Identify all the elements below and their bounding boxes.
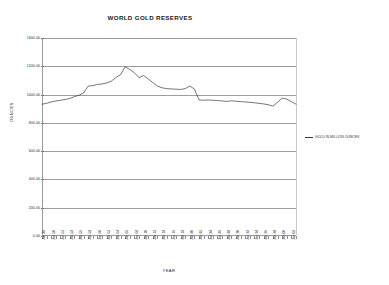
x-axis-tick [56,236,57,239]
y-axis-label: 1000.00 [27,93,40,97]
y-axis-label: 600.00 [29,149,40,153]
x-axis-tick [84,236,85,239]
x-axis-tick [278,236,279,239]
y-axis-label: 800.00 [29,121,40,125]
x-axis-tick [139,236,140,239]
x-axis-tick [111,236,112,239]
x-axis-tick [194,236,195,239]
x-axis-tick [241,236,242,239]
chart-legend: GOLD IN MILLION OUNCES [305,135,359,139]
legend-label-gold-in-million-ounces: GOLD IN MILLION OUNCES [315,135,359,139]
x-axis-tick [287,236,288,239]
y-axis-label: 1200.00 [27,64,40,68]
chart-container: WORLD GOLD RESERVES OUNCES 0.00200.00400… [0,0,389,285]
x-axis-title: YEAR [42,268,296,273]
x-axis-ticks-group: Jan-48Jan-50Jan-52Jan-54Jan-56Jan-58Jan-… [42,236,296,266]
x-axis-tick [176,236,177,239]
x-axis-tick [148,236,149,239]
x-axis-tick [204,236,205,239]
y-axis-title: OUNCES [9,102,14,122]
x-axis-tick [65,236,66,239]
x-axis-tick [231,236,232,239]
y-axis-label: 1400.00 [27,36,40,40]
x-axis-tick [121,236,122,239]
y-axis-label: 400.00 [29,177,40,181]
series-line-chart [42,38,296,236]
x-axis-tick [130,236,131,239]
x-axis-tick [222,236,223,239]
x-axis-tick [167,236,168,239]
series-line-gold-in-million-ounces [42,67,296,106]
x-axis-tick [268,236,269,239]
x-axis-tick [74,236,75,239]
x-axis-tick [47,236,48,239]
x-axis-tick [185,236,186,239]
x-axis-tick [213,236,214,239]
x-axis-tick [259,236,260,239]
chart-title: WORLD GOLD RESERVES [0,14,300,21]
y-axis-label: 200.00 [29,206,40,210]
x-axis-tick [157,236,158,239]
x-axis-tick [93,236,94,239]
legend-line-swatch [305,137,313,138]
y-axis-label: 0.00 [33,234,40,238]
x-axis-tick [296,236,297,239]
x-axis-tick [102,236,103,239]
x-axis-tick [250,236,251,239]
